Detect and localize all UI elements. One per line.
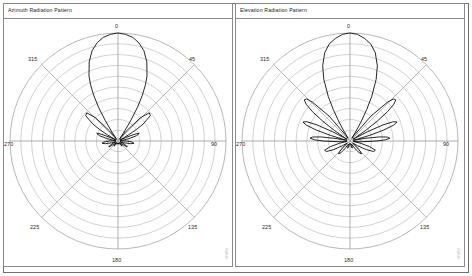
elevation-label-225: 225 bbox=[262, 224, 271, 230]
panel-elevation-title: Elevation Radiation Pattern bbox=[240, 7, 307, 14]
azimuth-plot-area: 0 45 90 135 180 225 270 315 MW01 bbox=[4, 19, 232, 266]
azimuth-label-90: 90 bbox=[211, 141, 217, 147]
azimuth-watermark: MW01 bbox=[225, 248, 229, 259]
elevation-label-270: 270 bbox=[236, 141, 245, 147]
elevation-label-180: 180 bbox=[344, 257, 353, 263]
azimuth-label-45: 45 bbox=[189, 56, 195, 62]
elevation-label-0: 0 bbox=[347, 23, 350, 29]
azimuth-label-135: 135 bbox=[188, 224, 197, 230]
azimuth-label-315: 315 bbox=[28, 56, 37, 62]
azimuth-label-180: 180 bbox=[112, 257, 121, 263]
panel-azimuth-title: Azimuth Radiation Pattern bbox=[8, 7, 72, 14]
screenshot-root: Azimuth Radiation Pattern 0 45 90 135 18… bbox=[0, 0, 472, 276]
elevation-label-135: 135 bbox=[420, 224, 429, 230]
elevation-watermark: MW02 bbox=[457, 248, 461, 259]
azimuth-label-270: 270 bbox=[4, 141, 13, 147]
elevation-label-45: 45 bbox=[421, 56, 427, 62]
polar-grid bbox=[10, 33, 226, 249]
azimuth-label-225: 225 bbox=[30, 224, 39, 230]
elevation-label-90: 90 bbox=[443, 141, 449, 147]
panel-elevation: Elevation Radiation Pattern 0 45 90 135 … bbox=[235, 3, 465, 267]
panel-azimuth-titlebar: Azimuth Radiation Pattern bbox=[4, 4, 232, 19]
panel-azimuth: Azimuth Radiation Pattern 0 45 90 135 18… bbox=[3, 3, 233, 267]
elevation-label-315: 315 bbox=[260, 56, 269, 62]
elevation-plot-area: 0 45 90 135 180 225 270 315 MW02 bbox=[236, 19, 464, 266]
azimuth-label-0: 0 bbox=[115, 23, 118, 29]
panel-elevation-titlebar: Elevation Radiation Pattern bbox=[236, 4, 464, 19]
polar-grid bbox=[242, 33, 458, 249]
